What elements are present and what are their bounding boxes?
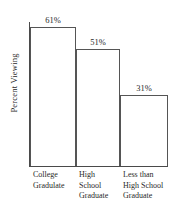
bar-high-school-graduate: [76, 49, 120, 166]
x-axis-tick-labels: College Gradulate High School Graduate L…: [30, 170, 187, 212]
value-label-less-than-high-school-graduate: 31%: [120, 83, 168, 93]
category-label-college-graduate: College Gradulate: [33, 170, 65, 191]
bar-chart: Percent Viewing 61% 51% 31% College Grad…: [0, 0, 187, 212]
category-line: School: [79, 181, 108, 192]
bar-less-than-high-school-graduate: [120, 95, 168, 166]
value-label-college-graduate: 61%: [30, 15, 76, 25]
category-label-high-school-graduate: High School Graduate: [79, 170, 108, 202]
category-line: Less than: [123, 170, 163, 181]
category-line: Graduate: [123, 191, 163, 202]
plot-area: 61% 51% 31%: [30, 18, 168, 166]
value-label-high-school-graduate: 51%: [76, 37, 120, 47]
bar-college-graduate: [30, 27, 76, 166]
category-line: Graduate: [79, 191, 108, 202]
category-line: College: [33, 170, 65, 181]
category-line: Gradulate: [33, 181, 65, 192]
category-label-less-than-high-school-graduate: Less than High School Graduate: [123, 170, 163, 202]
category-line: High: [79, 170, 108, 181]
category-line: High School: [123, 181, 163, 192]
y-axis-label: Percent Viewing: [0, 0, 28, 166]
y-axis-label-text: Percent Viewing: [9, 53, 19, 112]
x-axis-line: [29, 166, 168, 167]
